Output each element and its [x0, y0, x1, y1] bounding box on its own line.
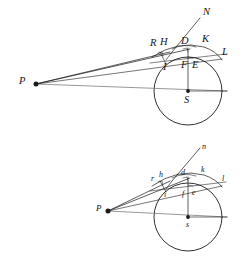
label-f-lower: f: [182, 190, 184, 198]
lower-center-dot-s: [186, 215, 190, 219]
label-k-lower: k: [201, 166, 205, 174]
lower-ray-pd: [108, 178, 190, 211]
label-n-lower: n: [202, 143, 206, 151]
figure-page: P N R H D K L I F E S: [0, 0, 246, 261]
label-d-lower: d: [181, 169, 185, 177]
lower-segment-fe: [188, 185, 193, 186]
label-p-lower: P: [96, 204, 102, 213]
lower-diagram: P n r h d k l i f e s: [0, 0, 246, 261]
label-h-lower: h: [159, 171, 163, 179]
label-s-lower: s: [186, 221, 189, 229]
label-l-lower: l: [222, 175, 224, 183]
label-e-lower: e: [192, 189, 196, 197]
lower-diagram-canvas: [0, 0, 246, 261]
label-r-lower: r: [151, 175, 154, 183]
label-i-lower: i: [164, 191, 166, 199]
lower-source-dot-p: [106, 209, 111, 214]
lower-axis-line: [108, 211, 227, 217]
